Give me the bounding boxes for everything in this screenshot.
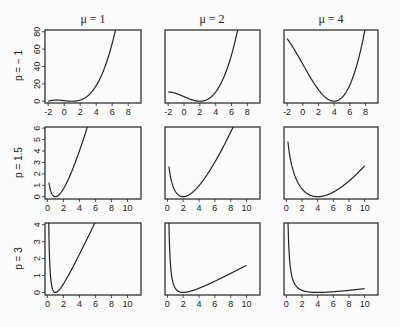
panel-frame: [165, 223, 260, 295]
x-tick-label: 6: [331, 299, 336, 309]
x-tick-label: 6: [331, 203, 336, 213]
x-tick-label: 4: [77, 203, 82, 213]
x-tick-label: 2: [300, 203, 305, 213]
panel-frame: [284, 30, 378, 103]
panel-r1-c2: -202468: [164, 0, 263, 117]
y-tick-label: 4: [32, 148, 42, 153]
x-tick-label: 8: [126, 107, 131, 117]
x-tick-label: -2: [283, 107, 291, 117]
y-tick-label: 3: [32, 160, 42, 165]
x-tick-label: 8: [109, 299, 114, 309]
y-tick-label: 40: [32, 61, 42, 71]
x-tick-label: 2: [61, 299, 66, 309]
x-tick-label: 6: [212, 299, 217, 309]
x-tick-label: 0: [300, 107, 305, 117]
panel-r2-c3: 0246810: [284, 127, 378, 213]
panel-r1-c3: -202468: [283, 0, 381, 117]
y-tick-label: 1: [32, 273, 42, 278]
x-tick-label: 4: [332, 107, 337, 117]
x-tick-label: 6: [229, 107, 234, 117]
x-tick-label: 8: [363, 107, 368, 117]
x-tick-label: 0: [45, 299, 50, 309]
x-tick-label: 6: [212, 203, 217, 213]
x-tick-label: 0: [284, 203, 289, 213]
x-tick-label: 4: [197, 299, 202, 309]
x-tick-label: 10: [360, 203, 370, 213]
panel-frame: [165, 127, 260, 199]
y-tick-label: 4: [32, 222, 42, 227]
x-tick-label: 2: [61, 203, 66, 213]
x-tick-label: 0: [165, 203, 170, 213]
x-tick-label: 10: [122, 203, 132, 213]
x-tick-label: 10: [242, 299, 252, 309]
panel-frame: [45, 223, 141, 295]
y-tick-label: 20: [32, 79, 42, 89]
x-tick-label: -2: [44, 107, 52, 117]
x-tick-label: 0: [45, 203, 50, 213]
panel-frame: [284, 223, 378, 295]
x-tick-label: 0: [284, 299, 289, 309]
panel-frame: [45, 127, 141, 199]
x-tick-label: 4: [315, 203, 320, 213]
x-tick-label: 2: [181, 299, 186, 309]
x-tick-label: 10: [122, 299, 132, 309]
panel-frame: [45, 30, 141, 103]
y-tick-label: 0: [32, 194, 42, 199]
x-tick-label: 8: [347, 203, 352, 213]
x-tick-label: 2: [197, 107, 202, 117]
x-tick-label: 8: [228, 299, 233, 309]
x-tick-label: 6: [110, 107, 115, 117]
x-tick-label: 2: [316, 107, 321, 117]
x-tick-label: 4: [197, 203, 202, 213]
x-tick-label: 10: [360, 299, 370, 309]
panel-frame: [284, 127, 378, 199]
x-tick-label: 4: [213, 107, 218, 117]
x-tick-label: -2: [164, 107, 172, 117]
y-tick-label: 0: [32, 290, 42, 295]
x-tick-label: 4: [77, 299, 82, 309]
x-tick-label: 0: [181, 107, 186, 117]
panels-svg: -202468020406080-202468-2024680246810012…: [0, 0, 400, 327]
x-tick-label: 6: [93, 299, 98, 309]
x-tick-label: 0: [165, 299, 170, 309]
y-tick-label: 3: [32, 239, 42, 244]
y-tick-label: 60: [32, 44, 42, 54]
x-tick-label: 2: [78, 107, 83, 117]
x-tick-label: 6: [347, 107, 352, 117]
y-tick-label: 1: [32, 183, 42, 188]
y-tick-label: 6: [32, 126, 42, 131]
y-tick-label: 2: [32, 256, 42, 261]
panel-frame: [165, 30, 260, 103]
y-tick-label: 0: [32, 99, 42, 104]
x-tick-label: 8: [109, 203, 114, 213]
panel-r1-c1: -202468020406080: [32, 0, 144, 117]
x-tick-label: 6: [93, 203, 98, 213]
x-tick-label: 2: [181, 203, 186, 213]
x-tick-label: 8: [228, 203, 233, 213]
x-tick-label: 8: [347, 299, 352, 309]
x-tick-label: 4: [315, 299, 320, 309]
x-tick-label: 8: [245, 107, 250, 117]
y-tick-label: 80: [32, 27, 42, 37]
x-tick-label: 0: [62, 107, 67, 117]
y-tick-label: 5: [32, 137, 42, 142]
y-tick-label: 2: [32, 171, 42, 176]
x-tick-label: 4: [94, 107, 99, 117]
x-tick-label: 10: [242, 203, 252, 213]
x-tick-label: 2: [300, 299, 305, 309]
chart-grid: μ = 1 μ = 2 μ = 4 p = − 1 p = 1.5 p = 3 …: [0, 0, 400, 327]
